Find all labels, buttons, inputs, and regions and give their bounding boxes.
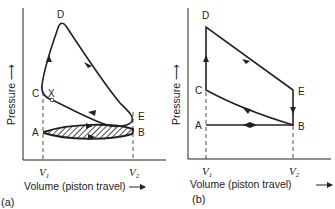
point-e-label-a: E [138,111,145,122]
arrow-down-right-icon [242,59,250,64]
y-axis-label-a: Pressure ⟶ [5,64,17,125]
arrow-up-icon [203,55,209,62]
v1-label-b: V1 [202,165,212,179]
cycle-curve-a [42,23,133,126]
arrow-right-icon [250,122,257,128]
point-b-label-a: B [138,127,145,138]
arrow-left-icon [243,122,250,128]
indicator-diagrams: D C X A B E Pressure ⟶ V1 V2 Volume (pis… [0,0,335,209]
point-a-label-b: A [195,120,202,131]
point-d-label-b: D [202,10,209,21]
point-e-label-b: E [298,86,305,97]
point-a-label-a: A [32,127,39,138]
arrow-left-icon [88,110,96,116]
v2-label-b: V2 [289,165,300,179]
arrow-down-icon [290,107,296,114]
arrow-up-icon [46,55,52,62]
point-c-label-b: C [195,85,202,96]
panel-label-b: (b) [192,193,205,205]
panel-label-a: (a) [1,196,14,208]
diagram-a: D C X A B E Pressure ⟶ V1 V2 Volume (pis… [1,8,166,208]
point-c-label-a: C [32,88,39,99]
point-x-label-a: X [48,88,55,99]
point-b-label-b: B [298,121,305,132]
v1-label-a: V1 [39,166,49,180]
point-d-label-a: D [57,9,64,20]
x-axis-label-b: Volume (piston travel) [190,178,292,190]
x-axis-label-a: Volume (piston travel) [24,180,126,192]
y-axis-label-b: Pressure ⟶ [170,64,182,125]
v2-label-a: V2 [129,166,140,180]
diagram-b: D C E A B Pressure ⟶ V1 V2 Volume (pisto… [170,8,332,205]
